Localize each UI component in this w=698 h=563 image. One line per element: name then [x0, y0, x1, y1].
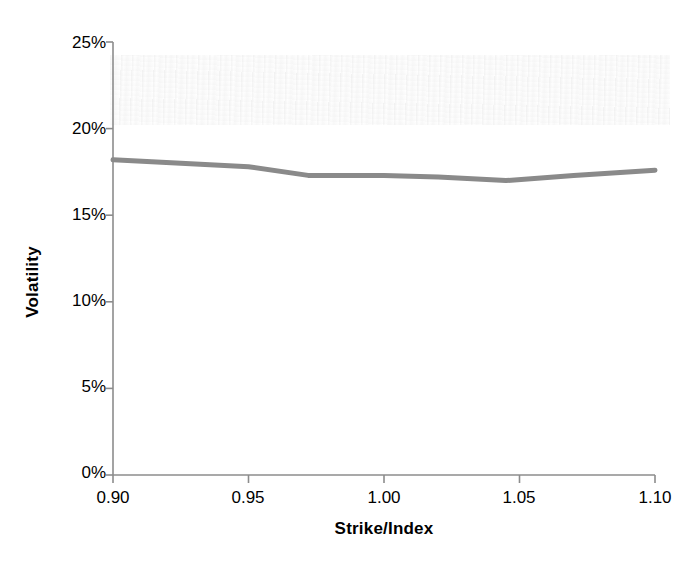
volatility-smile-chart: Volatility 25% 20% 15% 10% 5% 0% 0.90 0.…: [0, 0, 698, 563]
volatility-series-line: [113, 160, 655, 181]
y-axis-ticks: [106, 42, 113, 475]
plot-area: [0, 0, 698, 563]
x-axis-ticks: [113, 475, 655, 483]
x-axis-title: Strike/Index: [113, 519, 655, 539]
